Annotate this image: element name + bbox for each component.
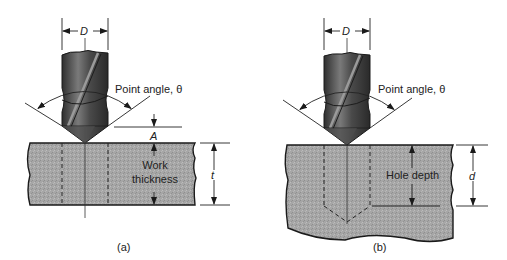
work-thickness-label-line2: thickness — [126, 174, 184, 185]
depth-symbol-d: d — [469, 171, 475, 182]
approach-label-a: A — [150, 131, 157, 142]
caption-b: (b) — [373, 242, 386, 253]
thickness-symbol-t: t — [211, 170, 214, 181]
diameter-label-b: D — [342, 26, 350, 37]
hole-depth-label: Hole depth — [386, 170, 439, 181]
work-thickness-label-line1: Work — [130, 160, 180, 171]
workpiece-b — [285, 145, 453, 242]
panel-a — [25, 18, 230, 218]
panel-b — [283, 18, 488, 242]
caption-a: (a) — [117, 242, 130, 253]
drilling-diagram — [0, 0, 507, 260]
diameter-label-a: D — [80, 26, 88, 37]
point-angle-label-a: Point angle, θ — [115, 84, 182, 95]
point-angle-label-b: Point angle, θ — [378, 84, 445, 95]
